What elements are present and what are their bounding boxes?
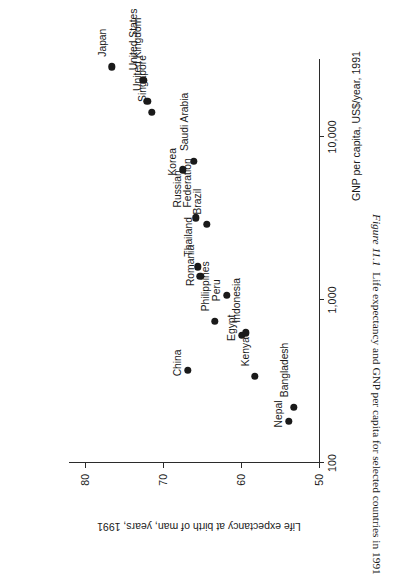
y-tick-label: 50: [313, 474, 325, 486]
data-point[interactable]: [148, 108, 155, 115]
figure-number: Figure 11.1: [371, 214, 383, 267]
y-axis-title: Life expectancy at birth of man, years, …: [97, 521, 301, 533]
y-tick-label: 70: [157, 474, 169, 486]
data-point-label: Singapore: [138, 55, 149, 102]
data-point-label: Nepal: [274, 400, 285, 427]
data-point-label: China: [173, 349, 184, 376]
x-tick-label: 10,000: [326, 120, 338, 153]
data-point[interactable]: [203, 221, 210, 228]
data-point[interactable]: [251, 373, 258, 380]
scatter-plot: 1001,00010,000 50607080 JapanUnited Stat…: [69, 59, 319, 463]
data-point[interactable]: [184, 367, 191, 374]
data-point-label: Japan: [98, 29, 109, 57]
data-point-label: Kenya: [241, 337, 252, 366]
y-tick-label: 60: [235, 474, 247, 486]
data-point-label: Indonesia: [232, 278, 243, 323]
x-axis-title: GNP per capita, US$/year, 1991: [350, 51, 362, 201]
data-point-label: Romania: [186, 245, 197, 286]
y-tick: [241, 463, 242, 468]
x-tick-label: 1,000: [326, 286, 338, 313]
data-point[interactable]: [285, 418, 292, 425]
y-tick: [85, 463, 86, 468]
y-tick-label: 80: [79, 474, 91, 486]
data-point[interactable]: [290, 403, 297, 410]
data-point-label: Saudi Arabia: [180, 93, 191, 151]
data-point-label: Brazil: [193, 189, 204, 215]
data-point[interactable]: [242, 329, 249, 336]
figure-caption-text: Life expectancy and GNP per capita for s…: [371, 272, 383, 575]
data-point-label: RussianFederation: [173, 158, 195, 207]
data-point-label: Bangladesh: [280, 343, 291, 397]
x-tick-label: 100: [326, 454, 338, 472]
x-tick: [319, 299, 324, 300]
y-axis-line: [69, 462, 320, 463]
y-tick: [163, 463, 164, 468]
data-point[interactable]: [108, 63, 115, 70]
data-point[interactable]: [223, 291, 230, 298]
data-point[interactable]: [211, 318, 218, 325]
x-axis-line: [319, 59, 320, 463]
data-point-label: Peru: [212, 279, 223, 301]
figure-caption: Figure 11.1 Life expectancy and GNP per …: [370, 214, 384, 544]
x-tick: [319, 136, 324, 137]
chart-stage: 1001,00010,000 50607080 JapanUnited Stat…: [55, 33, 355, 523]
y-tick: [319, 463, 320, 468]
